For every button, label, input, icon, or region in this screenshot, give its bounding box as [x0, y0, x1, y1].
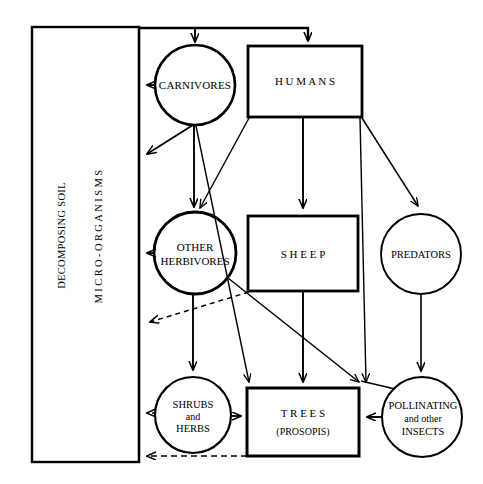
decomposers-line2: MICRO-ORGANISMS — [94, 167, 105, 303]
node-humans-shape — [248, 46, 362, 117]
node-sheep-shape — [248, 216, 358, 291]
decomposers-line1: DECOMPOSING SOIL — [56, 182, 67, 289]
node-other-herbivores-shape — [154, 212, 236, 294]
edge-decomposers-to-humans — [139, 28, 308, 41]
node-predators-shape — [381, 214, 461, 294]
edge-humans-to-other-herbivores — [200, 118, 249, 208]
edge-decomposers-to-carnivores — [139, 28, 195, 42]
edge-humans-to-trees — [360, 118, 366, 382]
food-web-diagram: DECOMPOSING SOIL MICRO-ORGANISMS CARNIVO… — [0, 0, 483, 484]
edge-pollinators-upper-link — [361, 381, 395, 389]
edge-carnivores-to-trees — [196, 126, 249, 382]
node-carnivores-shape — [155, 45, 235, 125]
node-shrubs-herbs-shape — [155, 377, 231, 453]
node-trees-shape — [247, 388, 359, 456]
edge-humans-to-predators — [362, 118, 418, 206]
node-decomposers: DECOMPOSING SOIL — [44, 120, 78, 350]
node-decomposers-line2-wrap: MICRO-ORGANISMS — [82, 120, 116, 350]
edge-carnivores-to-decomposers-diagonal — [147, 125, 193, 154]
edge-other-herbivores-to-trees — [228, 278, 359, 382]
